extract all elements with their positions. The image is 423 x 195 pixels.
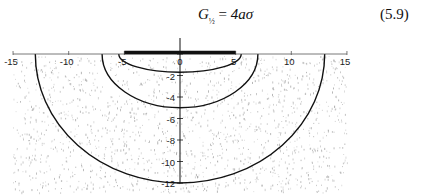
x-tick-label: -10 [60,56,74,67]
x-tick-label: 15 [340,56,351,67]
y-tick-label: -12 [161,178,175,189]
y-tick-label: -2 [167,71,175,82]
y-tick-label: -10 [161,157,175,168]
x-tick-label: 5 [231,56,236,67]
y-tick-label: -8 [167,135,175,146]
y-tick-label: -4 [167,92,175,103]
x-tick-label: -5 [118,56,126,67]
x-tick-label: 0 [177,56,182,67]
x-tick-label: -15 [4,56,18,67]
stress-bulb-diagram: -15-10-5051015-2-4-6-8-10-12 [0,0,423,195]
y-tick-label: -6 [167,114,175,125]
x-tick-label: 10 [284,56,295,67]
